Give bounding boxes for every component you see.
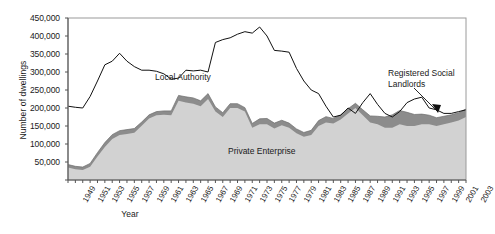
private-enterprise-label: Private Enterprise: [228, 146, 296, 156]
rsl-leader-line: [414, 88, 438, 112]
local-authority-label: Local Authority: [155, 72, 211, 82]
area-private-enterprise: [68, 99, 466, 180]
registered-social-landlords-label: Registered Social Landlords: [388, 68, 480, 90]
